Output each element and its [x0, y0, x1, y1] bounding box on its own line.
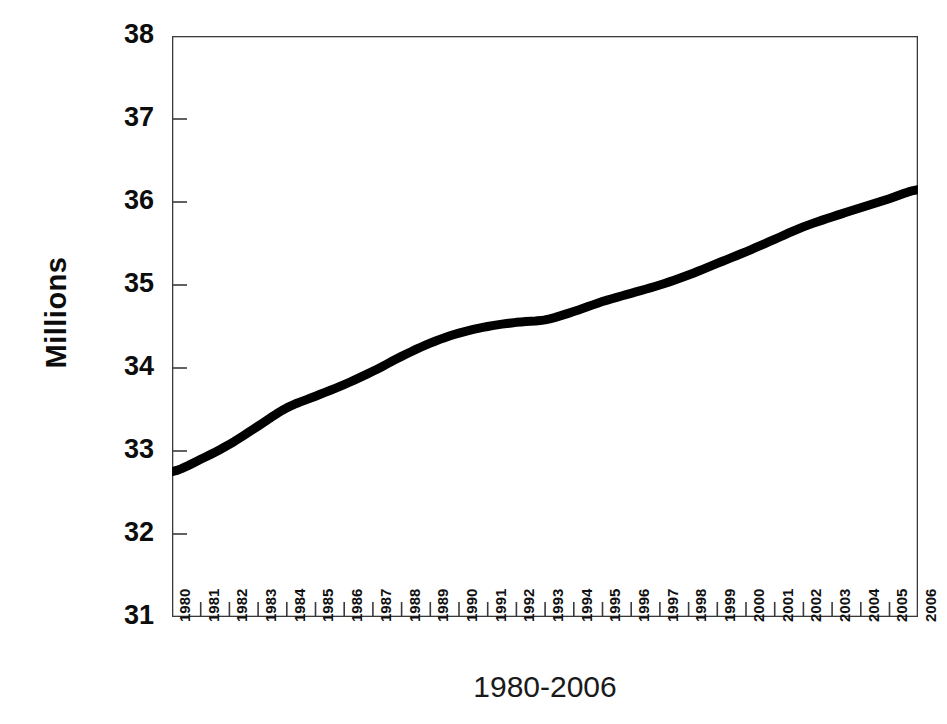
y-tick-label-38: 38	[94, 21, 154, 48]
y-tick-label-31: 31	[94, 602, 154, 629]
y-tick-label-37: 37	[94, 104, 154, 131]
x-axis-title: 1980-2006	[172, 670, 918, 704]
y-axis-title: Millions	[40, 213, 73, 413]
y-tick-label-32: 32	[94, 519, 154, 546]
plot-svg	[172, 36, 918, 617]
chart-figure: Millions	[0, 0, 947, 724]
plot-area: 31 32 33 34 35 36 37 38	[172, 36, 918, 617]
y-tick-label-35: 35	[94, 270, 154, 297]
axis-frame	[173, 37, 918, 617]
y-tick-label-36: 36	[94, 187, 154, 214]
y-tick-label-34: 34	[94, 353, 154, 380]
y-tick-label-33: 33	[94, 436, 154, 463]
